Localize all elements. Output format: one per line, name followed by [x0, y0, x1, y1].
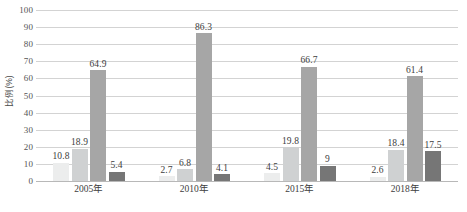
bar: 86.3 [196, 33, 212, 181]
bar-value-label: 66.7 [300, 56, 317, 66]
bar-value-label: 2.7 [160, 166, 172, 176]
bar: 10.8 [53, 163, 69, 181]
bar: 4.5 [264, 173, 280, 181]
y-axis-tick-label: 70 [14, 57, 33, 66]
bar: 66.7 [301, 67, 317, 181]
bar-group: 4.519.866.79 [247, 10, 353, 181]
bar: 9 [320, 166, 336, 181]
y-axis-tick-label: 20 [14, 142, 33, 151]
bar-value-label: 61.4 [406, 66, 423, 76]
bar: 19.8 [283, 147, 299, 181]
y-axis-tick-label: 40 [14, 108, 33, 117]
y-axis-title-text: 比例(%) [2, 75, 14, 106]
bar-value-label: 10.8 [52, 152, 69, 162]
y-axis-tick-labels: 1009080706050403020100 [14, 0, 33, 181]
bar-value-label: 9 [325, 155, 330, 165]
bar: 17.5 [425, 151, 441, 181]
bar: 18.4 [388, 150, 404, 181]
y-axis-tick-label: 80 [14, 40, 33, 49]
bar-value-label: 5.4 [110, 161, 122, 171]
x-axis-category-label: 2005年 [36, 185, 142, 195]
bar: 6.8 [177, 169, 193, 181]
bar-value-label: 18.9 [71, 138, 88, 148]
x-axis-category-label: 2018年 [353, 185, 459, 195]
bar: 2.7 [159, 176, 175, 181]
axis-baseline [36, 181, 458, 182]
bar-value-label: 86.3 [195, 23, 212, 33]
bar-value-label: 64.9 [89, 60, 106, 70]
x-axis-category-labels: 2005年2010年2015年2018年 [36, 183, 458, 203]
bar-value-label: 18.4 [387, 139, 404, 149]
x-axis-category-label: 2015年 [247, 185, 353, 195]
bar: 64.9 [90, 70, 106, 181]
bar-value-label: 19.8 [282, 137, 299, 147]
bar-value-label: 6.8 [179, 159, 191, 169]
bar-value-label: 17.5 [424, 141, 441, 151]
bar-value-label: 2.6 [371, 166, 383, 176]
x-axis-category-label: 2010年 [142, 185, 248, 195]
y-axis-tick-label: 90 [14, 23, 33, 32]
bar: 18.9 [72, 149, 88, 181]
bar-group: 10.818.964.95.4 [36, 10, 142, 181]
bar-group: 2.76.886.34.1 [142, 10, 248, 181]
bar-value-label: 4.1 [216, 164, 228, 174]
plot-area: 10.818.964.95.42.76.886.34.14.519.866.79… [36, 10, 458, 181]
bar: 61.4 [407, 76, 423, 181]
y-axis-tick-label: 0 [14, 177, 33, 186]
bar-value-label: 4.5 [266, 163, 278, 173]
y-axis-tick-label: 60 [14, 74, 33, 83]
bar: 5.4 [109, 172, 125, 181]
y-axis-tick-label: 30 [14, 125, 33, 134]
bar-group: 2.618.461.417.5 [353, 10, 459, 181]
bar: 2.6 [370, 177, 386, 181]
bar-chart: 比例(%) 1009080706050403020100 10.818.964.… [0, 0, 467, 212]
y-axis-tick-label: 10 [14, 159, 33, 168]
bar: 4.1 [214, 174, 230, 181]
y-axis-tick-label: 50 [14, 91, 33, 100]
y-axis-tick-label: 100 [14, 6, 33, 15]
